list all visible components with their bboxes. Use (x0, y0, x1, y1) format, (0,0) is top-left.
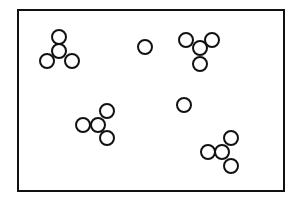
sphere-circle (224, 131, 238, 145)
diagram-frame (18, 10, 284, 191)
sphere-circle (40, 54, 54, 68)
diagram-canvas (0, 0, 299, 199)
sphere-circle (52, 30, 66, 44)
diagram-svg (0, 0, 299, 199)
sphere-circle (100, 131, 114, 145)
single-circle-middle (177, 98, 191, 112)
sphere-circle (193, 41, 207, 55)
cluster-top-right (179, 33, 219, 71)
sphere-circle (100, 104, 114, 118)
sphere-circle (193, 57, 207, 71)
cluster-top-left (40, 30, 79, 68)
sphere-circle (224, 159, 238, 173)
sphere-circle (91, 118, 105, 132)
cluster-middle-left (76, 104, 114, 145)
sphere-circle (76, 118, 90, 132)
sphere-circle (215, 145, 229, 159)
sphere-circle (201, 145, 215, 159)
sphere-circle (65, 54, 79, 68)
single-circle-top (138, 40, 152, 54)
sphere-circle (179, 33, 193, 47)
cluster-bottom-right (201, 131, 238, 173)
single-circles-layer (138, 40, 191, 112)
sphere-circle (52, 44, 66, 58)
